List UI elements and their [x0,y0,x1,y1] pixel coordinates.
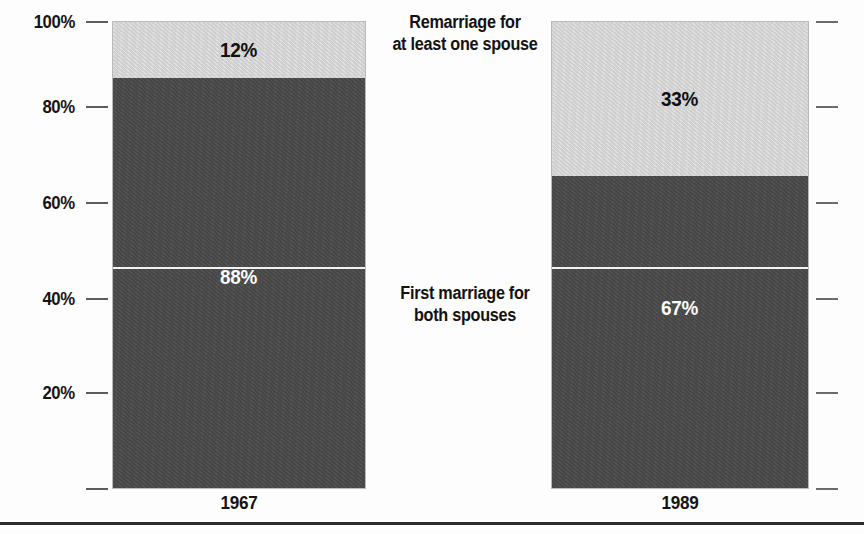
x-axis-category-label: 1967 [126,492,353,514]
reference-line [552,267,808,269]
bar-segment[interactable]: 12% [113,22,365,78]
legend-label-line: both spouses [386,305,544,327]
bar-segment-value: 12% [220,38,257,62]
bar-segment-value: 33% [661,87,698,111]
legend-label-line: at least one spouse [386,34,544,56]
bar-segment-value: 67% [661,296,698,320]
bar-segment[interactable]: 33% [552,22,808,176]
bottom-divider [0,522,864,525]
bar-segment[interactable]: 88% [113,78,365,488]
legend-label-first-marriage: First marriage forboth spouses [386,283,544,327]
legend-label-line: Remarriage for [386,12,544,34]
plot-area: 12%88%196733%67%1989 [0,0,864,534]
bar-segment[interactable]: 67% [552,176,808,488]
bar-segment-value: 88% [220,265,257,289]
legend-label-remarriage: Remarriage forat least one spouse [386,12,544,56]
stacked-bar[interactable]: 12%88% [113,22,365,488]
chart-container: 100%80%60%40%20% 12%88%196733%67%1989 Re… [0,0,864,534]
x-axis-category-label: 1989 [565,492,795,514]
legend-label-line: First marriage for [386,283,544,305]
stacked-bar[interactable]: 33%67% [552,22,808,488]
